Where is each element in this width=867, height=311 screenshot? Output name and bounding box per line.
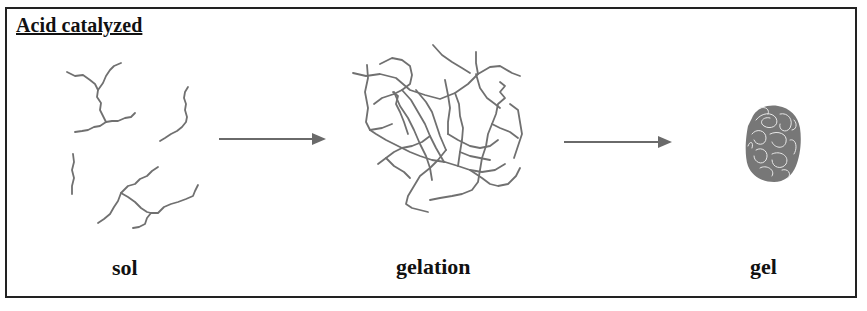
arrow-gelation-to-gel — [564, 136, 672, 148]
stage-label-gel: gel — [750, 254, 777, 280]
stage-label-sol: sol — [112, 255, 138, 281]
sol-illustration — [67, 63, 198, 228]
gelation-illustration — [353, 45, 522, 212]
gel-illustration — [746, 106, 801, 183]
stage-label-gelation: gelation — [396, 254, 471, 280]
arrow-sol-to-gelation — [219, 133, 326, 145]
